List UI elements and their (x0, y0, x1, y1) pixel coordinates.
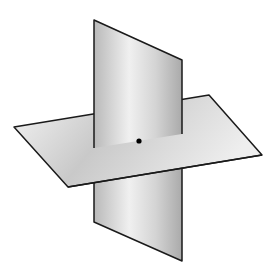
intersection-point (136, 138, 141, 143)
intersecting-planes-diagram (0, 0, 273, 276)
